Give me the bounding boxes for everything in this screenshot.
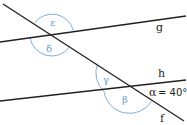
angle-alpha: α	[149, 86, 157, 99]
angle-beta: β	[122, 94, 128, 105]
angle-diagram: g h f ε δ γ β α = 40°	[0, 0, 187, 125]
label-g: g	[156, 21, 163, 34]
angle-alpha-value: = 40°	[158, 87, 187, 98]
angle-delta: δ	[46, 43, 52, 54]
angle-epsilon: ε	[50, 17, 55, 28]
label-h: h	[158, 67, 165, 80]
angle-gamma: γ	[103, 74, 109, 85]
label-f: f	[160, 112, 165, 125]
